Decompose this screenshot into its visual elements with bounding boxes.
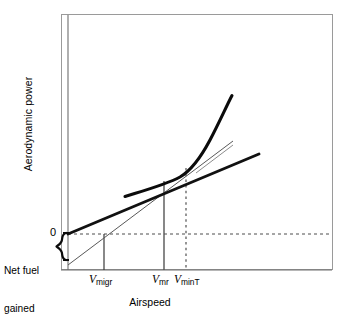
vmigr-symbol: V	[89, 273, 96, 285]
vmr-symbol: V	[152, 273, 159, 285]
net-fuel-line-1: Net fuel	[4, 265, 54, 278]
net-fuel-annotation: Net fuel gained per times in stopover	[4, 240, 54, 319]
x-tick-label-vmr: Vmr	[152, 273, 169, 287]
tangent-from-net-fuel-line	[68, 141, 233, 265]
net-fuel-line-2: gained	[4, 303, 54, 316]
figure-container: Aerodynamic power Airspeed 0 Net fuel ga…	[0, 0, 340, 319]
tangent-extension-segment	[196, 145, 233, 173]
vmint-symbol: V	[174, 273, 181, 285]
plot-frame	[62, 15, 333, 270]
vmigr-subscript: migr	[96, 277, 112, 287]
zero-tick-label: 0	[50, 226, 56, 238]
x-tick-label-vmint: VminT	[174, 273, 200, 287]
y-axis-label: Aerodynamic power	[22, 34, 34, 214]
vmr-subscript: mr	[159, 277, 169, 287]
x-axis-label: Airspeed	[90, 296, 210, 308]
vmint-subscript: minT	[181, 277, 200, 287]
x-tick-label-vmigr: Vmigr	[89, 273, 112, 287]
